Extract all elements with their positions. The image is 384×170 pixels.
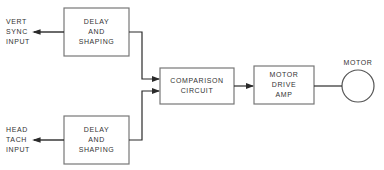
- delay-top-label: DELAY AND SHAPING: [64, 17, 129, 47]
- vert-sync-input-label: VERT SYNC INPUT: [6, 17, 30, 47]
- motor-label: MOTOR: [338, 58, 378, 68]
- arrow-delay-top-to-comparison: [129, 32, 159, 79]
- motor-drive-label: MOTOR DRIVE AMP: [254, 70, 314, 100]
- motor-circle: [342, 70, 374, 102]
- comparison-label: COMPARISON CIRCUIT: [160, 76, 234, 96]
- delay-bottom-label: DELAY AND SHAPING: [64, 125, 129, 155]
- head-tach-input-label: HEAD TACH INPUT: [6, 125, 30, 155]
- arrow-delay-bottom-to-comparison: [129, 91, 159, 140]
